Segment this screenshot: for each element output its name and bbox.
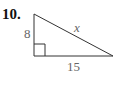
- right-angle-marker: [34, 44, 45, 56]
- left-side-label: 8: [24, 26, 31, 41]
- bottom-side-label: 15: [67, 59, 80, 74]
- right-triangle-diagram: 8 15 x: [0, 0, 122, 85]
- hypotenuse-label: x: [73, 20, 80, 35]
